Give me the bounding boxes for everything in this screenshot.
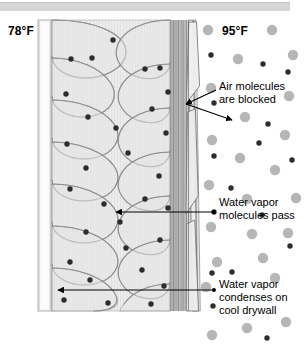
callout-vapor-condenses: Water vapor condenses on cool drywall xyxy=(219,278,288,317)
fiberglass-insulation-layer xyxy=(52,20,170,311)
exterior-temperature-label: 95°F xyxy=(222,24,248,38)
callout-vapor-pass: Water vapor molecules pass xyxy=(219,196,295,222)
interior-temperature-label: 78°F xyxy=(8,24,34,38)
diagram-canvas: 78°F 95°F Air molecules are blocked Wate… xyxy=(0,0,306,362)
top-gray-bar xyxy=(0,2,290,11)
callout-air-blocked: Air molecules are blocked xyxy=(219,80,285,106)
sheathing-stack-layer xyxy=(170,20,200,311)
drywall-layer xyxy=(38,20,52,311)
